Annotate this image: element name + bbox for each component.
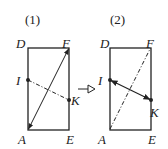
diagram-canvas: (1) D F I K A E (2) D F I K A E (0, 0, 168, 149)
solid-arrow-a-f (29, 49, 69, 129)
transition-arrow-icon (78, 85, 95, 93)
label-f: F (61, 36, 71, 51)
solid-arrow-i-k (111, 81, 150, 100)
figure-2: (2) D F I K A E (97, 12, 160, 147)
label-f: F (145, 36, 155, 51)
label-a: A (17, 132, 26, 147)
caption-2: (2) (110, 12, 125, 27)
label-e: E (147, 132, 156, 147)
caption-1: (1) (25, 12, 40, 27)
point-k (149, 98, 153, 102)
label-k: K (70, 93, 81, 108)
dashed-line-a-f (110, 49, 150, 129)
figure-1: (1) D F I K A E (15, 12, 81, 147)
point-i (26, 78, 30, 82)
label-d: D (15, 36, 26, 51)
point-i (108, 78, 112, 82)
label-k: K (149, 105, 160, 120)
label-i: I (97, 73, 103, 88)
label-i: I (15, 73, 21, 88)
label-d: D (99, 36, 110, 51)
label-e: E (65, 132, 74, 147)
label-a: A (97, 132, 106, 147)
